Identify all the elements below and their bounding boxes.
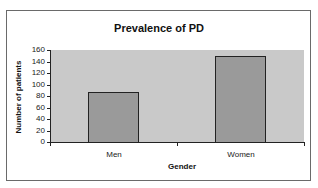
y-tick: [47, 50, 51, 51]
x-axis-label: Gender: [0, 162, 318, 171]
y-tick: [47, 85, 51, 86]
y-tick: [47, 73, 51, 74]
y-tick-label: 0: [24, 138, 45, 146]
y-tick-label: 100: [24, 81, 45, 89]
y-tick-label: 80: [24, 92, 45, 100]
y-tick-label: 120: [24, 69, 45, 77]
bar-men: [88, 92, 139, 143]
chart-title: Prevalence of PD: [0, 22, 318, 34]
x-tick: [50, 142, 51, 146]
y-tick: [47, 96, 51, 97]
y-tick-label: 140: [24, 58, 45, 66]
x-category-label: Women: [211, 150, 271, 159]
y-tick-label: 40: [24, 115, 45, 123]
y-tick: [47, 108, 51, 109]
y-tick-label: 20: [24, 127, 45, 135]
x-tick: [304, 142, 305, 146]
bar-women: [215, 56, 266, 143]
y-tick: [47, 62, 51, 63]
y-tick-label: 60: [24, 104, 45, 112]
x-category-label: Men: [84, 150, 144, 159]
y-axis-label: Number of patients: [14, 61, 23, 134]
x-tick: [177, 142, 178, 146]
y-tick: [47, 131, 51, 132]
y-tick-label: 160: [24, 46, 45, 54]
y-tick: [47, 119, 51, 120]
